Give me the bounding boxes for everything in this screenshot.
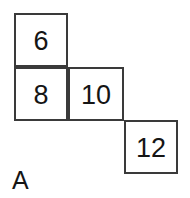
square-cell-label-10: 10 <box>70 82 122 109</box>
square-cell-10: 10 <box>68 67 124 121</box>
square-cell-8: 8 <box>14 67 68 121</box>
square-cell-label-8: 8 <box>16 82 66 109</box>
square-cell-6: 6 <box>14 13 68 67</box>
square-cell-12: 12 <box>124 120 178 174</box>
figure-staircase-squares: 6 8 10 12 A <box>0 0 190 198</box>
square-cell-label-12: 12 <box>126 135 176 162</box>
figure-caption-label: A <box>12 168 29 193</box>
square-cell-label-6: 6 <box>16 28 66 55</box>
